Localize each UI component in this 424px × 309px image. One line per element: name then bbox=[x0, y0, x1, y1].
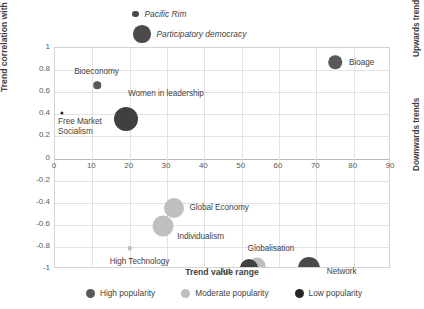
x-tick-label: 90 bbox=[377, 161, 403, 170]
gridline-vertical bbox=[316, 48, 317, 267]
gridline-vertical bbox=[354, 48, 355, 267]
gridline-horizontal bbox=[55, 181, 389, 182]
legend-swatch bbox=[86, 289, 95, 298]
gridline-horizontal bbox=[55, 92, 389, 93]
point-label: Bioeconomy bbox=[74, 67, 119, 76]
gridline-vertical bbox=[92, 48, 93, 267]
gridline-vertical bbox=[167, 48, 168, 267]
bubble-bioage[interactable] bbox=[328, 56, 342, 70]
point-label: High Technology bbox=[110, 257, 170, 266]
gridline-horizontal bbox=[55, 225, 389, 226]
y-tick-label: -0.6 bbox=[26, 219, 50, 228]
y-tick-label: 1 bbox=[26, 42, 50, 51]
plot-area: BioageBioeconomyWomen in leadershipFree … bbox=[54, 47, 390, 268]
point-label: Bioage bbox=[349, 58, 374, 67]
x-tick-label: 60 bbox=[265, 161, 291, 170]
point-label: Women in leadership bbox=[128, 89, 204, 98]
gridline-horizontal bbox=[55, 136, 389, 137]
y-tick-label: 0.4 bbox=[26, 108, 50, 117]
x-tick-label: 40 bbox=[190, 161, 216, 170]
x-tick-label: 80 bbox=[340, 161, 366, 170]
legend-swatch bbox=[295, 289, 304, 298]
x-tick-label: 0 bbox=[41, 161, 67, 170]
gridline-vertical bbox=[279, 48, 280, 267]
legend-label: Moderate popularity bbox=[195, 288, 268, 298]
legend-item-moderate-popularity[interactable]: Moderate popularity bbox=[181, 288, 268, 298]
y-tick-label: 0.2 bbox=[26, 130, 50, 139]
bubble-women-in-leadership[interactable] bbox=[114, 107, 138, 131]
point-label: Free Market Socialism bbox=[58, 117, 102, 136]
legend-label: Low popularity bbox=[309, 288, 363, 298]
y-tick-label: 0.6 bbox=[26, 86, 50, 95]
gridline-vertical bbox=[130, 48, 131, 267]
bubble-bioeconomy[interactable] bbox=[93, 81, 101, 89]
floating-point-label: Participatory democracy bbox=[157, 29, 247, 39]
y-tick-label: -0.8 bbox=[26, 241, 50, 250]
bubble-chart: Trend correlation with year 10.80.60.40.… bbox=[0, 0, 424, 309]
floating-point-participatory-democracy[interactable]: Participatory democracy bbox=[133, 25, 246, 43]
gridline-vertical bbox=[242, 48, 243, 267]
x-tick-label: 10 bbox=[78, 161, 104, 170]
x-tick-label: 50 bbox=[228, 161, 254, 170]
annotation-downwards-trends: Downwards trends bbox=[412, 98, 421, 171]
floating-point-pacific-rim[interactable]: Pacific Rim bbox=[132, 9, 186, 19]
chart-legend: High popularityModerate popularityLow po… bbox=[54, 288, 394, 298]
x-axis-title: Trend value range bbox=[54, 267, 390, 277]
point-label: Individualism bbox=[177, 232, 224, 241]
y-tick-label: -0.2 bbox=[26, 175, 50, 184]
legend-item-low-popularity[interactable]: Low popularity bbox=[295, 288, 363, 298]
point-label: Global Economy bbox=[189, 203, 248, 212]
bubble-individualism[interactable] bbox=[153, 216, 174, 237]
x-tick-label: 20 bbox=[116, 161, 142, 170]
y-tick-label: -0.4 bbox=[26, 197, 50, 206]
legend-item-high-popularity[interactable]: High popularity bbox=[86, 288, 155, 298]
bubble-art[interactable] bbox=[240, 259, 258, 267]
annotation-upwards-trends: Upwards trends bbox=[412, 0, 421, 57]
floating-point-label: Pacific Rim bbox=[145, 9, 187, 19]
y-tick-label: 0.8 bbox=[26, 64, 50, 73]
bubble-dot bbox=[133, 25, 151, 43]
gridline-horizontal bbox=[55, 247, 389, 248]
y-tick-label: -1 bbox=[26, 263, 50, 272]
x-tick-label: 70 bbox=[302, 161, 328, 170]
bubble-dot bbox=[132, 11, 139, 18]
y-axis-title: Trend correlation with year bbox=[0, 0, 9, 92]
x-axis-line bbox=[55, 159, 389, 160]
legend-swatch bbox=[181, 289, 190, 298]
legend-label: High popularity bbox=[100, 288, 155, 298]
bubble-globalisation[interactable] bbox=[248, 257, 265, 267]
point-label: Globalisation bbox=[248, 244, 295, 253]
x-tick-label: 30 bbox=[153, 161, 179, 170]
gridline-horizontal bbox=[55, 114, 389, 115]
